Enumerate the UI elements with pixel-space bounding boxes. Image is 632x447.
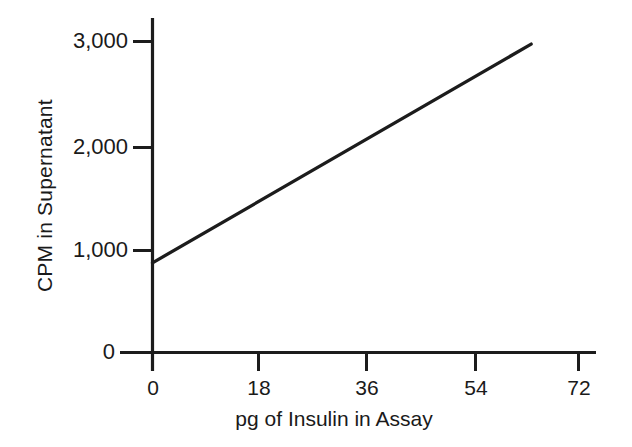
- y-axis-title: CPM in Supernatant: [34, 99, 55, 292]
- x-axis-title: pg of Insulin in Assay: [235, 408, 432, 429]
- x-tick-label-36: 36: [355, 377, 378, 398]
- y-tick-label-3000: 3,000: [20, 30, 128, 52]
- x-tick-label-72: 72: [567, 377, 590, 398]
- data-series-standard-curve: [153, 44, 532, 263]
- x-tick-label-18: 18: [247, 377, 270, 398]
- plot-area: [0, 0, 632, 447]
- x-tick-label-54: 54: [464, 377, 487, 398]
- x-tick-label-0: 0: [147, 377, 159, 398]
- chart-figure: 3,000 2,000 1,000 0 0 18 36 54 72 pg of …: [0, 0, 632, 447]
- y-tick-label-0: 0: [20, 341, 115, 363]
